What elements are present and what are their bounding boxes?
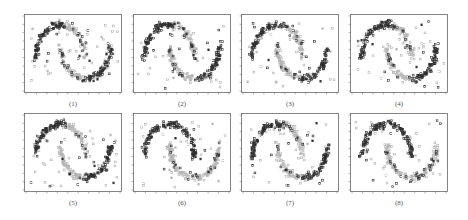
scatter-panel-2 — [133, 14, 231, 93]
panel-caption-1: (1) — [24, 100, 122, 108]
scatter-plot — [241, 14, 339, 93]
panel-caption-6: (6) — [133, 199, 231, 207]
scatter-plot — [350, 113, 448, 192]
scatter-plot — [24, 113, 122, 192]
scatter-panel-1 — [24, 14, 122, 93]
scatter-plot — [133, 113, 231, 192]
scatter-panel-5 — [24, 113, 122, 192]
panel-caption-3: (3) — [241, 100, 339, 108]
scatter-plot — [350, 14, 448, 93]
plot-frame — [242, 114, 339, 192]
scatter-plot — [133, 14, 231, 93]
scatter-panel-6 — [133, 113, 231, 192]
scatter-panel-3 — [241, 14, 339, 93]
panel-caption-8: (8) — [350, 199, 448, 207]
panel-caption-7: (7) — [241, 199, 339, 207]
panel-caption-4: (4) — [350, 100, 448, 108]
scatter-panel-4 — [350, 14, 448, 93]
panel-caption-5: (5) — [24, 199, 122, 207]
scatter-panel-8 — [350, 113, 448, 192]
scatter-panel-7 — [241, 113, 339, 192]
panel-caption-2: (2) — [133, 100, 231, 108]
scatter-plot — [241, 113, 339, 192]
scatter-plot — [24, 14, 122, 93]
